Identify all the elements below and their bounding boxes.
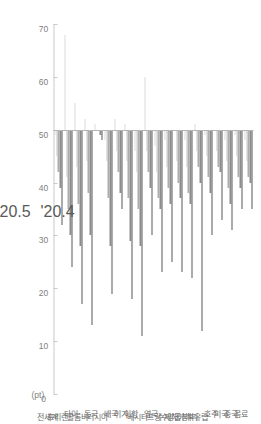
axis-tick-label: 60 — [38, 77, 47, 87]
bar — [246, 130, 247, 162]
bar — [207, 130, 208, 178]
bar — [87, 130, 88, 193]
axis-tick — [53, 24, 57, 25]
bar — [217, 130, 218, 167]
chart-canvas: 706050403020100 (pt) '20.4'20.5'20.6'20.… — [0, 0, 261, 424]
bar — [251, 130, 252, 209]
bar — [186, 130, 187, 167]
axis-tick — [53, 341, 57, 342]
axis-tick — [53, 183, 57, 184]
bar — [236, 130, 237, 156]
bar — [249, 130, 250, 183]
bar — [159, 130, 160, 209]
bar — [177, 130, 178, 183]
legend-item[interactable]: '20.8 — [0, 203, 261, 221]
axis-tick — [53, 77, 57, 78]
bar — [184, 130, 185, 141]
bar — [154, 130, 155, 146]
bar — [101, 130, 102, 141]
bar — [169, 130, 170, 204]
bar — [229, 130, 230, 204]
bar — [76, 130, 77, 167]
unit-label: (pt) — [31, 390, 44, 400]
bar — [74, 103, 75, 129]
bar — [157, 130, 158, 199]
bar — [107, 130, 108, 199]
bar — [57, 130, 58, 172]
bar — [144, 77, 145, 130]
axis-tick-label: 30 — [38, 235, 47, 245]
axis-tick-label: 40 — [38, 183, 47, 193]
rotated-chart-frame: 706050403020100 (pt) '20.4'20.5'20.6'20.… — [0, 0, 261, 424]
axis-tick-label: 20 — [38, 288, 47, 298]
bar — [216, 130, 217, 151]
bar — [86, 130, 87, 162]
bar — [84, 119, 85, 130]
bar — [141, 130, 142, 336]
bar — [196, 130, 197, 151]
bar — [66, 130, 67, 178]
bar — [114, 119, 115, 130]
bar — [166, 130, 167, 167]
bar — [71, 130, 72, 267]
bar — [226, 130, 227, 162]
bar — [237, 130, 238, 178]
bar — [187, 130, 188, 193]
bar — [117, 130, 118, 172]
bar — [201, 130, 202, 331]
axis-tick-label: 70 — [38, 24, 47, 34]
axis-tick — [53, 235, 57, 236]
bar — [136, 130, 137, 172]
bar — [247, 130, 248, 178]
bar — [91, 130, 92, 326]
bar — [164, 130, 165, 141]
bar — [189, 130, 190, 204]
bar — [56, 130, 57, 156]
axis-tick-label: 10 — [38, 341, 47, 351]
bar — [119, 130, 120, 193]
axis-tick — [53, 288, 57, 289]
bar — [156, 130, 157, 172]
bar — [59, 130, 60, 188]
bar — [109, 130, 110, 246]
bar — [206, 130, 207, 156]
category-label: 전세계 — [36, 411, 57, 422]
bar — [161, 130, 162, 273]
bar — [126, 130, 127, 162]
bar — [64, 35, 65, 130]
bar — [139, 130, 140, 246]
bar — [137, 130, 138, 209]
bar — [79, 130, 80, 246]
bar — [134, 130, 135, 151]
bar — [106, 130, 107, 162]
axis-tick — [53, 394, 57, 395]
bar — [129, 130, 130, 241]
bar — [171, 130, 172, 262]
bar — [199, 130, 200, 183]
bar — [224, 130, 225, 141]
bar — [121, 130, 122, 209]
bar — [149, 130, 150, 188]
bar — [167, 130, 168, 188]
bar — [176, 130, 177, 162]
bar — [197, 130, 198, 167]
bar — [147, 130, 148, 172]
axis-tick-label: 50 — [38, 130, 47, 140]
bar — [227, 130, 228, 188]
bar — [209, 130, 210, 193]
bar — [244, 130, 245, 141]
bar — [146, 130, 147, 151]
bar — [104, 130, 105, 141]
bar — [241, 130, 242, 209]
bar — [179, 130, 180, 199]
bar — [127, 130, 128, 199]
bar — [116, 130, 117, 151]
bar — [219, 130, 220, 172]
bar — [239, 130, 240, 188]
bar — [181, 130, 182, 273]
bar — [67, 130, 68, 209]
baseline-50 — [53, 130, 253, 131]
bar — [77, 130, 78, 204]
